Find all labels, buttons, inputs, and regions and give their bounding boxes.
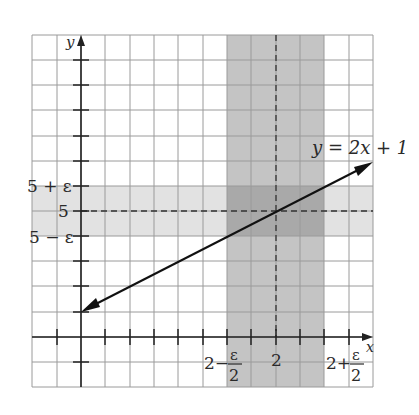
x-label-right-denominator: 2 <box>351 366 361 385</box>
x-label-right-base: 2+ <box>326 353 351 373</box>
epsilon-delta-diagram: y x y = 2x + 1 5 + ε 5 5 − ε 2− ε 2 2 2+… <box>0 0 419 415</box>
x-label-2-plus-half-epsilon: 2+ ε 2 <box>326 346 364 385</box>
x-label-right-numerator: ε <box>352 346 360 364</box>
y-label-5: 5 <box>58 201 69 221</box>
equation-label: y = 2x + 1 <box>311 137 408 158</box>
y-axis-label: y <box>65 33 75 51</box>
x-label-left-denominator: 2 <box>229 366 239 385</box>
y-axis-arrow-icon <box>77 35 85 46</box>
x-label-left-base: 2− <box>204 353 229 373</box>
y-label-5-plus-epsilon: 5 + ε <box>27 176 72 196</box>
x-axis-label: x <box>366 339 374 355</box>
x-label-2: 2 <box>271 350 282 370</box>
line-arrowhead-upper-icon <box>354 162 373 176</box>
line-arrowhead-lower-icon <box>81 298 100 312</box>
x-label-2-minus-half-epsilon: 2− ε 2 <box>204 346 242 385</box>
x-label-left-numerator: ε <box>230 346 238 364</box>
y-label-5-minus-epsilon: 5 − ε <box>29 227 74 247</box>
